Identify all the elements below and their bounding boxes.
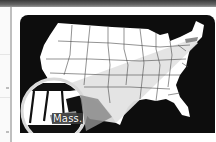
top-toolbar-bar — [0, 0, 216, 7]
sidebar-marker — [6, 87, 9, 89]
us-map-graphic — [20, 15, 215, 133]
sidebar-divider — [0, 97, 10, 98]
us-map-panel: Mass. — [20, 15, 215, 133]
vertical-separator — [10, 7, 12, 142]
state-label-massachusetts: Mass. — [52, 113, 83, 124]
left-sidebar-column — [0, 7, 10, 142]
sidebar-marker — [6, 131, 9, 133]
magnifier — [22, 79, 86, 133]
sidebar-divider — [0, 54, 10, 55]
